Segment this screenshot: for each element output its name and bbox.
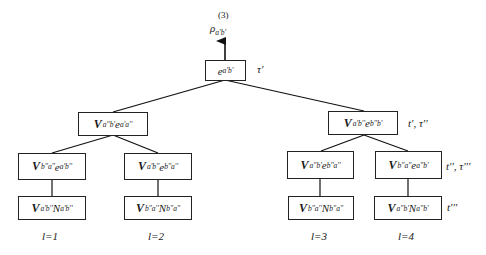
- l2-right-side-label: t', τ'': [408, 117, 428, 129]
- node-term: N: [159, 202, 166, 214]
- tree-node-l4-rl: Vb''a''Nb''a'': [288, 196, 354, 220]
- v-subscript: a''b': [309, 161, 321, 170]
- v-symbol: V: [32, 159, 40, 174]
- v-subscript: a'b'': [41, 204, 53, 213]
- node-term: N: [53, 202, 60, 214]
- node-term: N: [322, 202, 329, 214]
- leaf-label-3: l=3: [311, 230, 327, 242]
- v-symbol: V: [300, 158, 308, 173]
- leaf-label-2: l=2: [148, 230, 164, 242]
- tree-node-l4-lr: Vb''a''Nb''a'': [124, 196, 192, 220]
- node-subscript: a'b'': [60, 162, 72, 171]
- v-subscript: b''a'': [308, 204, 322, 213]
- v-symbol: V: [138, 159, 146, 174]
- node-subscript: b''a'': [329, 204, 343, 213]
- edge-root-l2right: [225, 80, 364, 111]
- v-subscript: b''a'': [41, 162, 55, 171]
- tree-node-l3-rl: Va''b'eb''a'': [287, 151, 354, 179]
- leaf-label-1: l=1: [42, 230, 58, 242]
- node-subscript: a'a'': [120, 120, 132, 129]
- v-symbol: V: [388, 158, 396, 173]
- node-subscript: b''a'': [164, 162, 178, 171]
- node-subscript: a'b': [223, 66, 234, 75]
- node-subscript: b''a'': [166, 204, 180, 213]
- output-equation-number: (3): [218, 10, 229, 20]
- tree-node-l4-rr: Va''b'Na''b': [374, 196, 442, 220]
- v-subscript: a''b': [397, 204, 409, 213]
- v-symbol: V: [94, 117, 102, 132]
- node-subscript: a''b': [416, 204, 428, 213]
- v-symbol: V: [136, 201, 144, 216]
- tree-node-l2-right: Va'b''eb''b': [328, 111, 398, 135]
- v-subscript: b''a'': [145, 204, 159, 213]
- v-symbol: V: [344, 116, 352, 131]
- edge-l2right-l3rr: [364, 135, 408, 151]
- l4-rr-side-label: t''': [447, 201, 457, 213]
- leaf-label-4: l=4: [398, 230, 414, 242]
- tree-node-root: ea'b': [205, 60, 246, 81]
- tree-node-l3-lr: Va'b''eb''a'': [124, 153, 192, 180]
- v-subscript: a''b': [103, 120, 115, 129]
- node-subscript: b''a'': [327, 161, 341, 170]
- v-subscript: b''a'': [397, 161, 411, 170]
- node-subscript: a'b'': [60, 204, 72, 213]
- node-subscript: b''b': [370, 119, 382, 128]
- node-subscript: a''b': [416, 161, 428, 170]
- v-subscript: a'b'': [353, 119, 365, 128]
- edge-l2left-l3lr: [113, 135, 158, 153]
- tree-node-l2-left: Va''b'ea'a'': [78, 112, 148, 136]
- output-rho-label: ρa'b': [210, 22, 226, 37]
- root-side-label: τ': [257, 63, 263, 75]
- l3-rr-side-label: t'', τ''': [446, 160, 470, 172]
- edge-l2left-l3ll: [52, 135, 113, 153]
- tree-node-l3-ll: Vb''a''ea'b'': [18, 153, 86, 180]
- v-symbol: V: [299, 201, 307, 216]
- v-symbol: V: [32, 201, 40, 216]
- rho-subscript: a'b': [215, 28, 226, 37]
- tree-node-l3-rr: Vb''a''ea''b': [375, 151, 442, 179]
- node-term: N: [409, 202, 416, 214]
- tree-node-l4-ll: Va'b''Na'b'': [18, 196, 86, 220]
- v-subscript: a'b'': [147, 162, 159, 171]
- v-symbol: V: [388, 201, 396, 216]
- edge-root-l2left: [113, 80, 225, 112]
- edge-l2right-l3rl: [321, 135, 364, 151]
